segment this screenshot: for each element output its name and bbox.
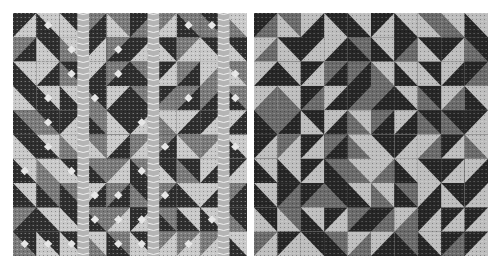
quilt-cell [107, 86, 131, 111]
quilt-cell [36, 135, 60, 160]
quilt-cell [254, 110, 278, 135]
quilt-cell [177, 232, 201, 256]
quilt-cell [36, 86, 60, 111]
quilt-cell [324, 110, 348, 135]
quilt-cell [465, 37, 488, 62]
quilt-cell [394, 183, 418, 208]
quilt-cell [394, 86, 418, 111]
quilt-cell [277, 159, 301, 184]
quilt-cell [254, 62, 278, 87]
quilt-cell [13, 207, 37, 232]
quilt-cell [301, 86, 325, 111]
quilt-cell [418, 62, 442, 87]
quilt-cell [36, 13, 60, 38]
quilt-cell [277, 37, 301, 62]
quilt-cell [301, 183, 325, 208]
quilt-cell [36, 183, 60, 208]
quilt-cell [394, 159, 418, 184]
quilt-cell [301, 232, 325, 256]
quilt-cell [254, 183, 278, 208]
quilt-cell [301, 207, 325, 232]
quilt-cell [324, 207, 348, 232]
quilt-cell [36, 159, 60, 184]
quilt-cell [36, 62, 60, 87]
quilt-cell [441, 183, 465, 208]
quilt-cell [13, 183, 37, 208]
quilt-cell [177, 62, 201, 87]
quilt-texture-right [254, 13, 488, 256]
quilt-cell [465, 232, 488, 256]
woven-band [148, 13, 160, 256]
quilt-cell [177, 135, 201, 160]
quilt-cell [465, 86, 488, 111]
quilt-cell [254, 232, 278, 256]
quilt-cell [441, 37, 465, 62]
quilt-cell [418, 159, 442, 184]
woven-band [77, 13, 89, 256]
quilt-cell [348, 13, 372, 38]
quilt-cell [324, 37, 348, 62]
quilt-cell [418, 207, 442, 232]
quilt-cell [465, 110, 488, 135]
quilt-cell [13, 37, 37, 62]
quilt-cell [465, 62, 488, 87]
quilt-cell [418, 86, 442, 111]
quilt-cell [254, 13, 278, 38]
quilt-cell [324, 183, 348, 208]
quilt-cell [301, 159, 325, 184]
quilt-cell [371, 159, 395, 184]
quilt-cell [277, 86, 301, 111]
quilt-cell [418, 110, 442, 135]
texture-panel-right: Grayscale quilt texture with speckled ha… [254, 13, 488, 256]
quilt-cell [107, 135, 131, 160]
quilt-cell [107, 62, 131, 87]
quilt-cell [371, 37, 395, 62]
quilt-cell [36, 110, 60, 135]
quilt-cell [13, 159, 37, 184]
quilt-cell [177, 207, 201, 232]
quilt-cell [324, 13, 348, 38]
quilt-cell [465, 135, 488, 160]
quilt-cell [324, 62, 348, 87]
quilt-cell [371, 86, 395, 111]
woven-band [218, 13, 230, 256]
quilt-cell [324, 135, 348, 160]
quilt-cell [394, 62, 418, 87]
quilt-cell [348, 207, 372, 232]
quilt-cell [441, 110, 465, 135]
quilt-cell [13, 62, 37, 87]
quilt-cell [13, 232, 37, 256]
quilt-cell [13, 86, 37, 111]
quilt-cell [441, 159, 465, 184]
quilt-cell [277, 13, 301, 38]
quilt-cell [277, 183, 301, 208]
quilt-cell [348, 183, 372, 208]
quilt-cell [301, 110, 325, 135]
quilt-cell [254, 86, 278, 111]
quilt-cell [324, 159, 348, 184]
quilt-cell [465, 207, 488, 232]
quilt-cell [107, 159, 131, 184]
quilt-cell [254, 159, 278, 184]
quilt-cell [254, 135, 278, 160]
quilt-cell [441, 232, 465, 256]
quilt-cell [371, 183, 395, 208]
quilt-cell [107, 183, 131, 208]
quilt-cell [394, 207, 418, 232]
quilt-cell [301, 13, 325, 38]
quilt-cell [348, 110, 372, 135]
quilt-cell [13, 13, 37, 38]
quilt-cell [348, 232, 372, 256]
quilt-cell [348, 37, 372, 62]
quilt-cell [107, 13, 131, 38]
quilt-cell [177, 183, 201, 208]
quilt-cell [277, 110, 301, 135]
quilt-cell [418, 232, 442, 256]
quilt-cell [394, 135, 418, 160]
quilt-cell [394, 37, 418, 62]
quilt-cell [177, 13, 201, 38]
quilt-cell [441, 135, 465, 160]
quilt-cell [371, 13, 395, 38]
quilt-cell [371, 207, 395, 232]
quilt-cell [348, 62, 372, 87]
